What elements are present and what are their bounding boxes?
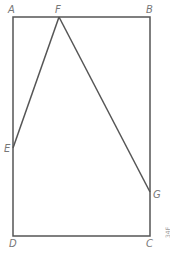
label-a: A — [7, 4, 15, 15]
segment-ef — [13, 17, 59, 148]
label-e: E — [4, 143, 11, 154]
label-d: D — [9, 238, 17, 249]
label-c: C — [146, 238, 153, 249]
rectangle-abcd — [13, 17, 150, 236]
label-f: F — [55, 4, 61, 15]
label-g: G — [153, 189, 161, 200]
segment-fg — [59, 17, 150, 192]
label-b: B — [146, 4, 153, 15]
geometry-diagram: A F B E G D C 34F — [0, 0, 170, 254]
corner-tag: 34F — [164, 226, 170, 238]
